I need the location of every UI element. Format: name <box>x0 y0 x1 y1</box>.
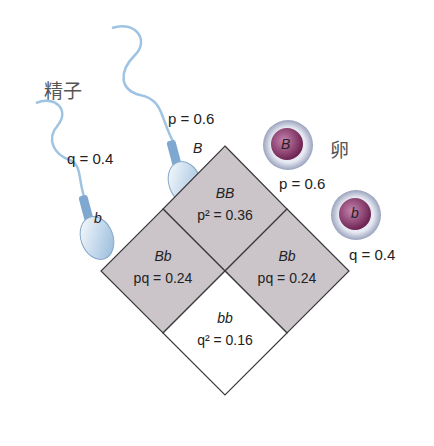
punnett-diagram: 精子 卵 B p = 0.6 b q = 0.4 B p = 0.6 b q =… <box>0 0 434 446</box>
egg-b-freq: q = 0.4 <box>349 246 395 263</box>
frequency: p² = 0.36 <box>180 204 270 226</box>
sperm-b-icon <box>36 101 120 264</box>
egg-title: 卵 <box>330 135 349 162</box>
genotype: Bb <box>118 245 208 267</box>
frequency: pq = 0.24 <box>118 267 208 289</box>
egg-B-allele: B <box>281 136 290 152</box>
genotype: BB <box>180 182 270 204</box>
egg-B-freq: p = 0.6 <box>279 175 325 192</box>
cell-bottom-text: bb q² = 0.16 <box>180 307 270 351</box>
sperm-title: 精子 <box>44 76 82 103</box>
frequency: q² = 0.16 <box>180 329 270 351</box>
sperm-B-freq: p = 0.6 <box>168 110 214 127</box>
sperm-b-freq: q = 0.4 <box>67 150 113 167</box>
genotype: Bb <box>242 245 332 267</box>
sperm-b-allele: b <box>94 210 102 226</box>
cell-right-text: Bb pq = 0.24 <box>242 245 332 289</box>
frequency: pq = 0.24 <box>242 267 332 289</box>
sperm-B-allele: B <box>193 140 202 156</box>
cell-top-text: BB p² = 0.36 <box>180 182 270 226</box>
genotype: bb <box>180 307 270 329</box>
egg-b-allele: b <box>351 205 359 221</box>
cell-left-text: Bb pq = 0.24 <box>118 245 208 289</box>
